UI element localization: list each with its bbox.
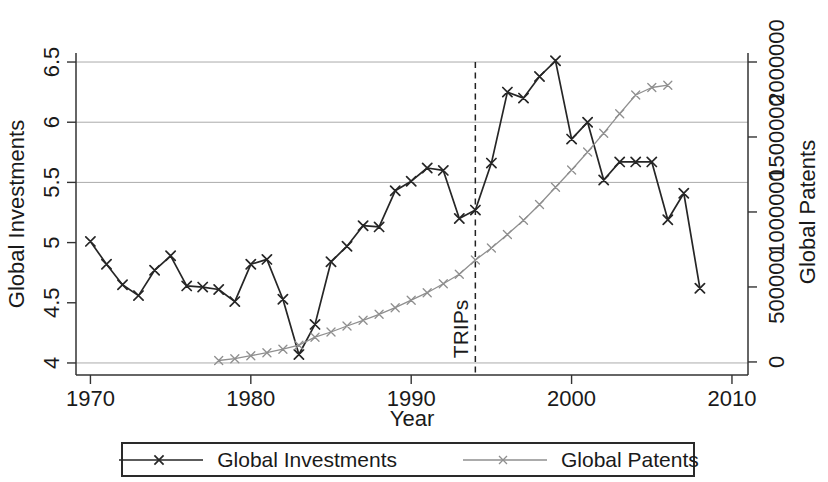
y-left-tick-label: 5.5 — [39, 167, 64, 198]
y-right-tick-label: 1000000 — [764, 169, 789, 255]
legend-label-patents: Global Patents — [561, 448, 699, 472]
chart-figure: 44.555.566.50500000100000015000002000000… — [0, 0, 828, 482]
legend-label-investments: Global Investments — [217, 448, 397, 472]
x-axis-tick-label: 1970 — [66, 386, 115, 411]
y-right-tick-label: 1500000 — [764, 94, 789, 180]
legend-item-global-patents: Global Patents — [461, 448, 699, 472]
y-left-tick-label: 6.5 — [39, 47, 64, 78]
legend: Global Investments Global Patents — [121, 442, 695, 477]
legend-line-sample-patents — [461, 453, 549, 467]
investments-series-line — [90, 61, 700, 355]
investments-series-markers — [86, 56, 705, 359]
legend-item-global-investments: Global Investments — [117, 448, 397, 472]
legend-line-sample-investments — [117, 453, 205, 467]
y-right-tick-label: 500000 — [764, 250, 789, 323]
y-right-tick-label: 2000000 — [764, 19, 789, 105]
x-axis-tick-label: 2000 — [547, 386, 596, 411]
y-right-tick-label: 0 — [764, 356, 789, 368]
patents-series-line — [219, 85, 668, 360]
x-axis-title: Year — [352, 406, 472, 432]
y-left-tick-label: 6 — [39, 116, 64, 128]
right-axis-title: Global Patents — [795, 47, 821, 377]
trips-annotation: TRIPs — [449, 269, 473, 389]
x-axis-tick-label: 2010 — [707, 386, 756, 411]
y-left-tick-label: 4 — [39, 357, 64, 369]
x-axis-tick-label: 1980 — [226, 386, 275, 411]
y-left-tick-label: 5 — [39, 236, 64, 248]
patents-series-markers — [215, 81, 672, 364]
y-left-tick-label: 4.5 — [39, 287, 64, 318]
left-axis-title: Global Investments — [4, 49, 30, 379]
